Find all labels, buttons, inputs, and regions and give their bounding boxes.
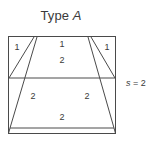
region-label-lower-right: 2 [81,91,93,101]
side-length-label: s = 2 [126,78,146,88]
side-length-value: 2 [141,78,146,88]
region-label-right-triangle: 1 [101,42,113,52]
geometry-diagram [0,0,156,152]
region-label-top-center-lower: 2 [56,55,68,65]
figure-root: Type A 1 1 2 1 2 2 2 s [0,0,156,152]
region-label-top-center-upper: 1 [56,39,68,49]
region-label-lower-left: 2 [27,91,39,101]
region-label-lower-center: 2 [56,112,68,122]
side-length-equals: = [131,78,141,88]
region-label-left-triangle: 1 [11,42,23,52]
